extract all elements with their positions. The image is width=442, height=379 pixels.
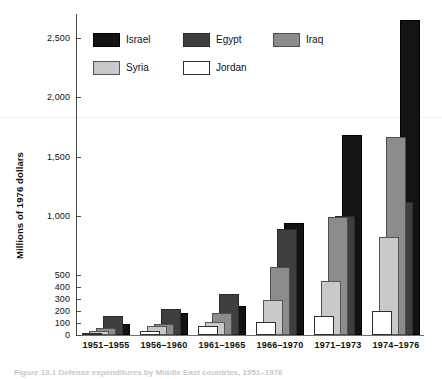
y-tick-label-wrap: 2,500: [22, 38, 70, 48]
figure-caption: Figure 13.1 Defense expenditures by Midd…: [14, 368, 434, 377]
legend-label: Jordan: [216, 62, 247, 73]
legend-swatch-egypt: [183, 33, 210, 47]
bar-group: [256, 14, 314, 335]
legend-swatch-syria: [93, 61, 120, 75]
legend-swatch-jordan: [183, 61, 210, 75]
bar-jordan: [140, 331, 160, 335]
y-tick-label-wrap: 100: [22, 323, 70, 333]
legend-item-jordan: Jordan: [183, 59, 247, 76]
y-axis-title: Millions of 1976 dollars: [14, 126, 25, 286]
y-tick-label-wrap: 500: [22, 275, 70, 285]
y-tick-label-wrap: 200: [22, 311, 70, 321]
legend-label: Israel: [126, 34, 150, 45]
bar-group: [314, 14, 372, 335]
bar-jordan: [82, 333, 102, 335]
y-tick-label: 500: [22, 270, 70, 280]
y-tick-label-wrap: 0: [22, 335, 70, 345]
figure: Millions of 1976 dollars 010020030040050…: [0, 0, 442, 379]
x-axis-label: 1974–1976: [362, 340, 430, 350]
bar-group: [372, 14, 430, 335]
bar-jordan: [256, 322, 276, 335]
legend-item-iraq: Iraq: [273, 31, 323, 48]
legend-swatch-israel: [93, 33, 120, 47]
legend-label: Egypt: [216, 34, 242, 45]
legend-item-syria: Syria: [93, 59, 149, 76]
x-axis-line: [76, 335, 424, 336]
y-tick-label: 2,000: [22, 92, 70, 102]
legend-item-israel: Israel: [93, 31, 150, 48]
y-tick-label-wrap: 300: [22, 299, 70, 309]
legend-item-egypt: Egypt: [183, 31, 242, 48]
y-tick-label-wrap: 2,000: [22, 97, 70, 107]
legend-label: Syria: [126, 62, 149, 73]
y-tick: [76, 335, 81, 336]
legend-swatch-iraq: [273, 33, 300, 47]
y-tick-label: 1,500: [22, 152, 70, 162]
y-tick-label-wrap: 1,500: [22, 157, 70, 167]
y-tick-label: 2,500: [22, 33, 70, 43]
y-tick-label-wrap: 400: [22, 287, 70, 297]
bar-jordan: [198, 326, 218, 335]
bar-jordan: [372, 311, 392, 335]
y-tick-label-wrap: 1,000: [22, 216, 70, 226]
legend-label: Iraq: [306, 34, 323, 45]
bar-jordan: [314, 316, 334, 335]
y-tick-label: 1,000: [22, 211, 70, 221]
